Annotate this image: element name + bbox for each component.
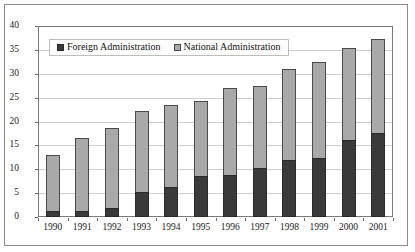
x-axis-tick-label: 1990 <box>38 223 68 233</box>
stacked-bar[interactable] <box>223 88 237 217</box>
y-axis-tick-label: 15 <box>0 140 19 150</box>
bar-segment-national-administration[interactable] <box>135 111 149 191</box>
y-axis-tick-label: 20 <box>0 117 19 127</box>
x-axis-tick-mark <box>127 218 128 221</box>
x-axis-tick-label: 1992 <box>97 223 127 233</box>
stacked-bar-chart: 0510152025303540 19901991199219931994199… <box>5 5 409 247</box>
y-axis-tick-label: 0 <box>0 212 19 222</box>
x-axis-tick-label: 2000 <box>334 223 364 233</box>
x-axis-tick-mark <box>97 218 98 221</box>
x-axis-tick-mark <box>186 218 187 221</box>
x-axis-tick-label: 1998 <box>275 223 305 233</box>
stacked-bar[interactable] <box>371 39 385 217</box>
bar-segment-foreign-administration[interactable] <box>135 192 149 217</box>
chart-legend: Foreign Administration National Administ… <box>49 39 289 56</box>
stacked-bar[interactable] <box>253 86 267 217</box>
stacked-bar[interactable] <box>135 111 149 217</box>
y-axis-tick-label: 30 <box>0 69 19 79</box>
bar-segment-national-administration[interactable] <box>194 101 208 176</box>
bar-segment-foreign-administration[interactable] <box>312 158 326 217</box>
x-axis-tick-label: 1991 <box>68 223 98 233</box>
bar-segment-foreign-administration[interactable] <box>371 133 385 217</box>
bar-segment-national-administration[interactable] <box>75 138 89 211</box>
bar-segment-national-administration[interactable] <box>371 39 385 134</box>
bar-segment-foreign-administration[interactable] <box>342 140 356 217</box>
stacked-bar[interactable] <box>75 138 89 217</box>
stacked-bar[interactable] <box>105 128 119 217</box>
bar-segment-national-administration[interactable] <box>342 48 356 139</box>
x-axis-tick-label: 1993 <box>127 223 157 233</box>
y-axis-tick-label: 5 <box>0 188 19 198</box>
x-axis-tick-mark <box>38 218 39 221</box>
light-square-icon <box>174 44 181 51</box>
x-axis-tick-mark <box>275 218 276 221</box>
bar-segment-foreign-administration[interactable] <box>75 211 89 217</box>
bar-segment-national-administration[interactable] <box>312 62 326 158</box>
x-axis-tick-mark <box>334 218 335 221</box>
y-axis-tick-label: 10 <box>0 164 19 174</box>
bar-segment-national-administration[interactable] <box>282 69 296 160</box>
stacked-bar[interactable] <box>342 48 356 217</box>
bar-slot <box>334 26 364 217</box>
x-axis-tick-mark <box>68 218 69 221</box>
bar-slot <box>304 26 334 217</box>
x-axis-tick-mark <box>245 218 246 221</box>
bar-segment-foreign-administration[interactable] <box>194 176 208 217</box>
bar-segment-foreign-administration[interactable] <box>253 168 267 217</box>
bar-segment-national-administration[interactable] <box>105 128 119 209</box>
bar-segment-foreign-administration[interactable] <box>105 208 119 217</box>
bar-slot <box>363 26 393 217</box>
bar-segment-national-administration[interactable] <box>223 88 237 174</box>
legend-label-foreign-administration: Foreign Administration <box>67 42 161 52</box>
x-axis: 1990199119921993199419951996199719981999… <box>38 218 393 240</box>
x-axis-tick-label: 2001 <box>363 223 393 233</box>
x-axis-tick-label: 1999 <box>304 223 334 233</box>
bar-segment-national-administration[interactable] <box>253 86 267 169</box>
x-axis-tick-mark <box>363 218 364 221</box>
y-axis-tick-label: 35 <box>0 45 19 55</box>
x-axis-tick-mark <box>156 218 157 221</box>
y-axis-tick-label: 25 <box>0 93 19 103</box>
x-axis-tick-mark <box>216 218 217 221</box>
bar-segment-foreign-administration[interactable] <box>223 175 237 217</box>
stacked-bar[interactable] <box>312 62 326 217</box>
y-axis-tick-label: 40 <box>0 21 19 31</box>
bar-segment-national-administration[interactable] <box>164 105 178 187</box>
stacked-bar[interactable] <box>164 105 178 217</box>
bar-segment-foreign-administration[interactable] <box>164 187 178 217</box>
x-axis-tick-label: 1996 <box>216 223 246 233</box>
legend-item-national-administration: National Administration <box>174 42 281 52</box>
legend-item-foreign-administration: Foreign Administration <box>57 42 161 52</box>
x-axis-tick-label: 1994 <box>156 223 186 233</box>
stacked-bar[interactable] <box>194 101 208 217</box>
bar-segment-foreign-administration[interactable] <box>282 160 296 217</box>
dark-square-icon <box>57 44 64 51</box>
stacked-bar[interactable] <box>282 69 296 217</box>
x-axis-tick-mark <box>304 218 305 221</box>
stacked-bar[interactable] <box>46 155 60 217</box>
x-axis-tick-label: 1995 <box>186 223 216 233</box>
chart-frame: 0510152025303540 19901991199219931994199… <box>4 4 408 246</box>
bar-segment-national-administration[interactable] <box>46 155 60 211</box>
bar-segment-foreign-administration[interactable] <box>46 211 60 217</box>
legend-label-national-administration: National Administration <box>184 42 281 52</box>
x-axis-tick-label: 1997 <box>245 223 275 233</box>
x-axis-tick-mark <box>393 218 394 221</box>
